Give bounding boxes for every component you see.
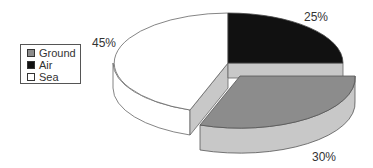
- ground-swatch-icon: [27, 49, 35, 57]
- pie-chart: [0, 0, 373, 168]
- sea-swatch-icon: [27, 73, 35, 81]
- ground-percent-label: 30%: [312, 150, 336, 164]
- air-swatch-icon: [27, 61, 35, 69]
- legend-item-sea: Sea: [27, 71, 80, 83]
- chart-legend: Ground Air Sea: [20, 44, 81, 84]
- legend-item-ground: Ground: [27, 47, 80, 59]
- legend-label: Sea: [39, 71, 59, 83]
- legend-item-air: Air: [27, 59, 80, 71]
- air-percent-label: 25%: [304, 10, 328, 24]
- sea-percent-label: 45%: [92, 36, 116, 50]
- legend-label: Air: [39, 59, 52, 71]
- legend-label: Ground: [39, 47, 76, 59]
